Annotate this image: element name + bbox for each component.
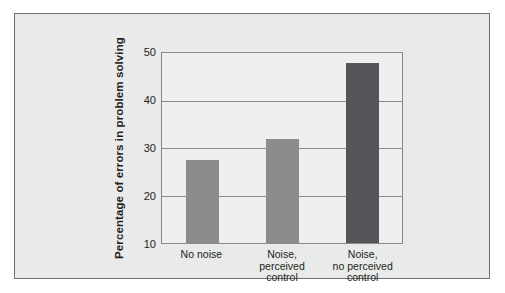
chart-panel: Percentage of errors in problem solving … [14,13,490,279]
bar-no-noise [186,160,219,243]
x-axis-label: Noise, perceived control [242,248,323,290]
y-axis-tick-label: 30 [126,143,156,154]
bar-noise-perceived-control [266,139,299,244]
plot-area [161,52,403,244]
y-axis-tick-label: 40 [126,95,156,106]
y-axis-tick-label: 20 [126,191,156,202]
x-axis-label: Noise, no perceived control [322,248,403,290]
y-axis-tick-label: 50 [126,47,156,58]
figure: Percentage of errors in problem solving … [0,0,505,293]
y-axis-ticks: 50 40 30 20 10 [123,52,156,244]
bar-noise-no-perceived-control [346,63,379,244]
x-axis-label: No noise [161,248,242,290]
x-axis-labels: No noise Noise, perceived control Noise,… [161,248,403,290]
y-axis-tick-label: 10 [126,239,156,250]
